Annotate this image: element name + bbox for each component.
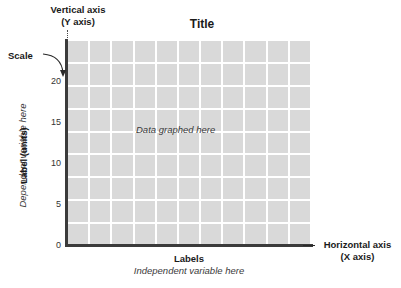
grid-cell bbox=[90, 110, 110, 131]
grid-cell bbox=[245, 178, 265, 199]
grid-cell bbox=[90, 64, 110, 85]
grid-cell bbox=[112, 133, 132, 154]
annotation-vertical-axis-line1: Vertical axis bbox=[28, 4, 128, 16]
grid-cell bbox=[201, 178, 221, 199]
grid-cell bbox=[157, 155, 177, 176]
grid-cell bbox=[223, 133, 243, 154]
grid-cell bbox=[90, 224, 110, 245]
grid-cell bbox=[68, 178, 88, 199]
grid-cell bbox=[68, 41, 88, 62]
grid-cell bbox=[268, 64, 288, 85]
grid-cell bbox=[223, 110, 243, 131]
grid-cell bbox=[268, 224, 288, 245]
grid-cell bbox=[179, 64, 199, 85]
grid-cell bbox=[157, 178, 177, 199]
grid-cell bbox=[90, 155, 110, 176]
grid-cell bbox=[68, 201, 88, 222]
grid-cell bbox=[223, 224, 243, 245]
grid-cell bbox=[135, 41, 155, 62]
grid-cell bbox=[68, 224, 88, 245]
grid-cell bbox=[201, 87, 221, 108]
grid-cell bbox=[201, 224, 221, 245]
y-axis-tick-label: 10 bbox=[38, 158, 61, 168]
grid-cell bbox=[290, 110, 310, 131]
grid-cell bbox=[68, 133, 88, 154]
diagram-canvas: 20151050 Title Data graphed here Depende… bbox=[0, 0, 401, 288]
grid-cell bbox=[157, 41, 177, 62]
grid-cell bbox=[268, 178, 288, 199]
grid-cell bbox=[135, 224, 155, 245]
plot-grid-area bbox=[68, 41, 310, 245]
grid-cell bbox=[290, 41, 310, 62]
grid-cell bbox=[90, 133, 110, 154]
grid-cell bbox=[112, 41, 132, 62]
annotation-vertical-axis-leader-line bbox=[67, 30, 69, 40]
grid-cell bbox=[245, 133, 265, 154]
grid-cell bbox=[135, 178, 155, 199]
grid-cell bbox=[223, 64, 243, 85]
grid-cell bbox=[223, 155, 243, 176]
grid-cell bbox=[112, 110, 132, 131]
x-axis-label-labels: Labels bbox=[139, 253, 239, 264]
grid-cell bbox=[201, 41, 221, 62]
grid-cell bbox=[112, 87, 132, 108]
grid-cell bbox=[245, 224, 265, 245]
grid-cell bbox=[290, 201, 310, 222]
grid-cell bbox=[268, 110, 288, 131]
annotation-horizontal-axis-line2: (X axis) bbox=[314, 251, 401, 263]
annotation-horizontal-axis-line1: Horizontal axis bbox=[314, 239, 401, 251]
x-axis-line bbox=[65, 244, 313, 247]
grid-cell bbox=[90, 41, 110, 62]
grid-cell bbox=[112, 64, 132, 85]
y-axis-label-units: Label (units) bbox=[18, 101, 29, 211]
grid-cell bbox=[245, 87, 265, 108]
grid-cell bbox=[245, 201, 265, 222]
grid-cell bbox=[179, 41, 199, 62]
grid-cell bbox=[179, 224, 199, 245]
grid-cell bbox=[179, 201, 199, 222]
grid-cell bbox=[290, 155, 310, 176]
grid-cell bbox=[68, 155, 88, 176]
grid-cell bbox=[90, 87, 110, 108]
annotation-vertical-axis: Vertical axis (Y axis) bbox=[28, 4, 128, 28]
grid-cell bbox=[201, 155, 221, 176]
y-axis-tick-label: 0 bbox=[38, 240, 61, 250]
grid-cell bbox=[290, 224, 310, 245]
grid-cell bbox=[135, 87, 155, 108]
grid-cell bbox=[179, 178, 199, 199]
grid-cell bbox=[245, 41, 265, 62]
grid-cell bbox=[290, 64, 310, 85]
grid-cell bbox=[157, 201, 177, 222]
grid-cell bbox=[290, 87, 310, 108]
grid-cell bbox=[135, 133, 155, 154]
y-axis-tick-labels: 20151050 bbox=[38, 0, 61, 288]
grid-cell bbox=[112, 155, 132, 176]
grid-cell bbox=[90, 178, 110, 199]
grid-cell bbox=[268, 41, 288, 62]
grid-cell bbox=[90, 201, 110, 222]
grid-cell bbox=[223, 201, 243, 222]
grid-cell bbox=[290, 178, 310, 199]
grid-cell bbox=[290, 133, 310, 154]
grid-cell bbox=[179, 155, 199, 176]
grid-cell bbox=[179, 87, 199, 108]
grid-cell bbox=[157, 64, 177, 85]
grid-cell bbox=[68, 64, 88, 85]
annotation-scale-label: Scale bbox=[8, 50, 33, 61]
grid-cell bbox=[245, 110, 265, 131]
grid-cell bbox=[112, 201, 132, 222]
grid-cell bbox=[245, 64, 265, 85]
grid-cell bbox=[223, 178, 243, 199]
annotation-horizontal-axis: Horizontal axis (X axis) bbox=[314, 239, 401, 263]
grid-cell bbox=[112, 224, 132, 245]
grid-cell bbox=[68, 110, 88, 131]
annotation-scale-arrow-icon bbox=[42, 52, 70, 82]
grid-cell bbox=[201, 133, 221, 154]
grid-cell bbox=[268, 87, 288, 108]
grid-cell bbox=[245, 155, 265, 176]
grid-cell bbox=[157, 87, 177, 108]
grid-cell bbox=[157, 224, 177, 245]
grid-cell bbox=[135, 201, 155, 222]
grid-cell bbox=[223, 41, 243, 62]
grid-cell bbox=[179, 133, 199, 154]
